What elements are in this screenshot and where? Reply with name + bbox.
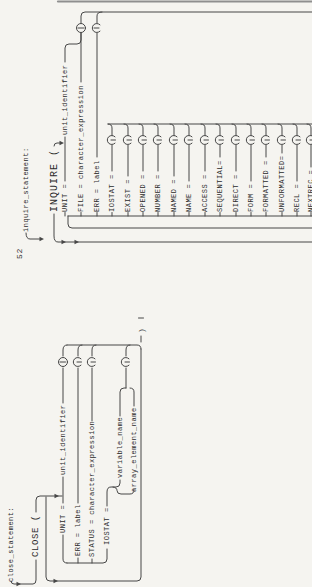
inquire-branch-unformatted: UNFORMATTED= (279, 156, 286, 212)
close-keyword-label: CLOSE ( (32, 515, 41, 557)
inquire-branch-recl: RECL = (294, 184, 301, 212)
close-paren-label: ) (138, 328, 146, 333)
inquire-branch-form: FORM = (248, 184, 255, 212)
close-branch-unit: UNIT = (60, 505, 67, 533)
inquire-branch-bends (108, 124, 311, 136)
scanned-manual-page: 52 inquire_statement: INQUIRE ( unit_ide… (0, 0, 312, 587)
inquire-distribution-rails (68, 216, 312, 228)
inquire-heading: inquire_statement: (23, 147, 30, 232)
inquire-branch-nextrec: NEXTREC = (308, 170, 312, 212)
inquire-entry-rail (26, 233, 40, 239)
close-branch-iostat: IOSTAT = (104, 507, 111, 545)
close-variable-name: variable_name (117, 417, 124, 478)
close-array-element-name: array_element_name (131, 407, 138, 492)
inquire-branch-err: ERR = label (94, 160, 101, 212)
inquire-branch-name: NAME = (186, 184, 193, 212)
close-unit-identifier: unit_identifier (60, 404, 67, 475)
page-number: 52 (16, 248, 24, 259)
inquire-branch-unit: UNIT = (62, 184, 69, 212)
inquire-branch-direct: DIRECT = (233, 174, 240, 212)
close-variable-merge (120, 345, 134, 416)
close-branch-status: STATUS = character_expression (89, 421, 96, 557)
close-heading: close_statement: (8, 507, 15, 582)
inquire-keyword-stubs (65, 213, 311, 217)
inquire-branch-exist: EXIST = (125, 179, 132, 212)
close-branch-err: ERR = label (75, 504, 82, 556)
syntax-diagram-lines (0, 0, 312, 587)
inquire-keyword-label: INQUIRE ( (50, 149, 60, 212)
inquire-branch-number: NUMBER = (155, 174, 162, 212)
inquire-loop-top-line (81, 12, 312, 23)
separator-arc-inquire-err (92, 24, 100, 33)
close-distribution-rail (67, 549, 107, 563)
inquire-branch-opened: OPENED = (140, 174, 147, 212)
inquire-branch-formatted: FORMATTED = (263, 160, 270, 212)
inquire-branch-file: FILE = character_expression (78, 85, 85, 212)
inquire-branch-sequential: SEQUENTIAL= (217, 160, 224, 212)
inquire-unit-identifier: unit_identifier (62, 64, 69, 135)
inquire-branch-iostat: IOSTAT = (109, 174, 116, 212)
inquire-branch-named: NAMED = (171, 179, 178, 212)
inquire-branch-access: ACCESS = (202, 174, 209, 212)
